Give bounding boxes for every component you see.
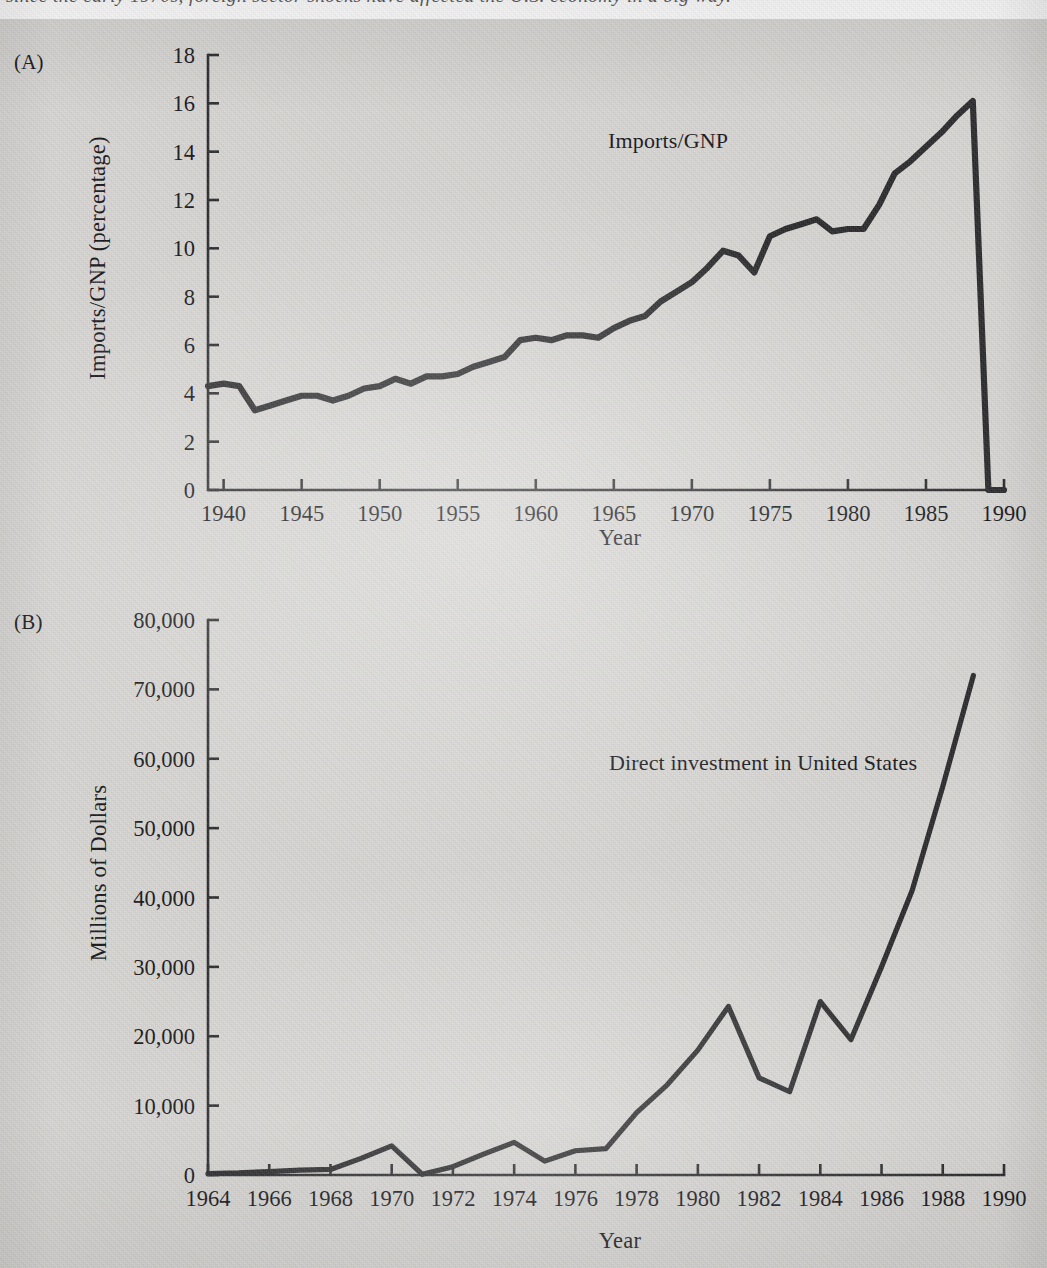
x-tick-label: 1974: [492, 1186, 537, 1210]
x-tick-label: 1965: [591, 501, 636, 526]
x-tick-label: 1955: [435, 501, 480, 526]
panel-a-plot: 0246810121416181940194519501955196019651…: [0, 0, 1047, 560]
x-tick-label: 1984: [798, 1186, 843, 1210]
x-tick-label: 1985: [903, 501, 948, 526]
x-tick-label: 1980: [825, 501, 870, 526]
y-tick-label: 16: [173, 91, 196, 116]
y-tick-label: 80,000: [133, 608, 195, 633]
data-series-line: [208, 101, 1004, 490]
y-tick-label: 10: [173, 236, 196, 261]
panel-a-y-axis-title: Imports/GNP (percentage): [85, 108, 111, 408]
x-tick-label: 1966: [247, 1186, 292, 1210]
y-tick-label: 18: [173, 43, 196, 68]
y-tick-label: 6: [184, 333, 195, 358]
x-tick-label: 1972: [430, 1186, 475, 1210]
panel-a-x-axis-title: Year: [470, 525, 770, 551]
y-tick-label: 14: [173, 140, 196, 165]
panel-a-series-label: Imports/GNP: [608, 128, 728, 154]
panel-a-chart: 0246810121416181940194519501955196019651…: [0, 0, 1047, 560]
y-tick-label: 30,000: [133, 955, 195, 980]
panel-a-letter: (A): [14, 50, 44, 75]
panel-b-plot: 010,00020,00030,00040,00050,00060,00070,…: [0, 590, 1047, 1210]
axis-spine: [208, 620, 1004, 1175]
x-tick-label: 1940: [201, 501, 246, 526]
y-tick-label: 0: [184, 478, 195, 503]
y-tick-label: 8: [184, 285, 195, 310]
x-tick-label: 1945: [279, 501, 324, 526]
x-tick-label: 1990: [982, 501, 1027, 526]
y-tick-label: 0: [184, 1163, 195, 1188]
y-tick-label: 10,000: [133, 1094, 195, 1119]
page-caption-strip: since the early 1970s, foreign sector sh…: [0, 0, 1047, 19]
y-tick-label: 50,000: [133, 816, 195, 841]
x-tick-label: 1970: [369, 1186, 414, 1210]
panel-b-series-label: Direct investment in United States: [609, 750, 917, 776]
x-tick-label: 1982: [737, 1186, 782, 1210]
page-caption-text: since the early 1970s, foreign sector sh…: [6, 0, 731, 7]
y-tick-label: 20,000: [133, 1024, 195, 1049]
x-tick-label: 1986: [859, 1186, 904, 1210]
y-tick-label: 60,000: [133, 747, 195, 772]
panel-b-x-axis-title: Year: [470, 1228, 770, 1254]
x-tick-label: 1964: [186, 1186, 231, 1210]
panel-b-y-axis-title: Millions of Dollars: [86, 728, 112, 1018]
x-tick-label: 1988: [920, 1186, 965, 1210]
x-tick-label: 1960: [513, 501, 558, 526]
x-tick-label: 1990: [982, 1186, 1027, 1210]
x-tick-label: 1980: [675, 1186, 720, 1210]
svg-b-group: 010,00020,00030,00040,00050,00060,00070,…: [133, 608, 1026, 1210]
axis-spine: [208, 55, 1004, 490]
svg-a-group: 0246810121416181940194519501955196019651…: [173, 43, 1027, 526]
x-tick-label: 1968: [308, 1186, 353, 1210]
x-tick-label: 1976: [553, 1186, 598, 1210]
x-tick-label: 1975: [747, 501, 792, 526]
panel-b-letter: (B): [14, 610, 43, 635]
y-tick-label: 4: [184, 381, 195, 406]
y-tick-label: 70,000: [133, 677, 195, 702]
x-tick-label: 1978: [614, 1186, 659, 1210]
panel-b-chart: 010,00020,00030,00040,00050,00060,00070,…: [0, 590, 1047, 1210]
x-tick-label: 1950: [357, 501, 402, 526]
scanned-figure-page: since the early 1970s, foreign sector sh…: [0, 0, 1047, 1268]
y-tick-label: 2: [184, 430, 195, 455]
y-tick-label: 12: [173, 188, 196, 213]
x-tick-label: 1970: [669, 501, 714, 526]
y-tick-label: 40,000: [133, 886, 195, 911]
